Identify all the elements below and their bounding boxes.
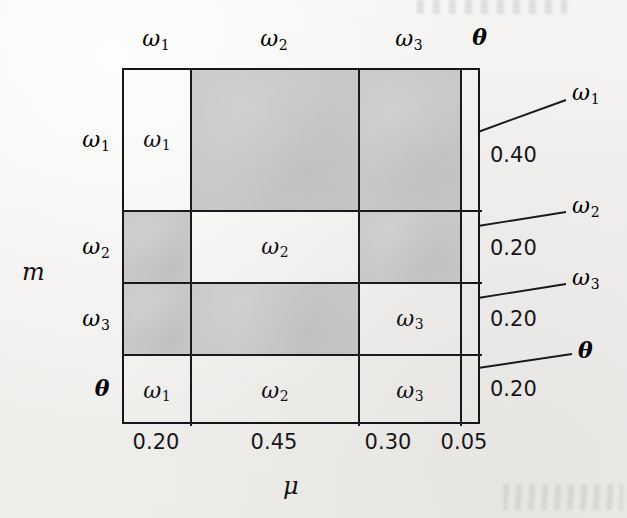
scan-artifact-top	[417, 0, 567, 14]
row-header-3: θ	[36, 375, 110, 403]
row-callout-1: ω2	[572, 193, 600, 220]
matrix-cell-3-2-subscript: 3	[415, 388, 424, 404]
row-header-0-symbol: ω	[82, 127, 100, 152]
matrix-cell-1-1-symbol: ω	[261, 234, 279, 259]
matrix-cell-2-1[interactable]	[192, 284, 360, 356]
row-header-2-subscript: 3	[101, 317, 110, 333]
matrix-cell-1-0[interactable]	[124, 212, 192, 284]
combination-matrix-grid: ω1 ω2 ω3	[122, 68, 480, 424]
matrix-cell-1-1[interactable]: ω2	[192, 212, 360, 284]
row-header-0: ω1	[36, 127, 110, 154]
leader-line-2	[478, 284, 566, 298]
row-header-1-subscript: 2	[101, 245, 110, 261]
row-callout-3-symbol: θ	[578, 337, 593, 363]
column-header-2-symbol: ω	[395, 26, 413, 51]
matrix-cell-3-0-symbol: ω	[143, 378, 161, 403]
row-callout-0: ω1	[572, 80, 600, 107]
matrix-cell-0-0-symbol: ω	[143, 127, 161, 152]
column-header-1-symbol: ω	[260, 26, 278, 51]
x-axis-name: μ	[283, 472, 299, 500]
row-header-1-symbol: ω	[82, 234, 100, 259]
column-header-1: ω2	[190, 26, 358, 53]
leader-line-3	[478, 354, 572, 368]
row-mass-1: 0.20	[490, 236, 570, 260]
matrix-cell-3-0-subscript: 1	[162, 388, 171, 404]
column-header-2: ω3	[358, 26, 460, 53]
matrix-cell-3-2[interactable]: ω3	[360, 356, 462, 426]
row-callout-0-subscript: 1	[591, 91, 600, 107]
row-callout-3: θ	[578, 337, 593, 365]
dempster-combination-matrix-figure: ω1 ω2 ω3 θ ω1 ω2 ω3 θ m μ ω1	[0, 0, 627, 518]
matrix-cell-3-1[interactable]: ω2	[192, 356, 360, 426]
matrix-cell-2-2[interactable]: ω3	[360, 284, 462, 356]
matrix-cell-0-2[interactable]	[360, 70, 462, 212]
row-callout-2: ω3	[572, 265, 600, 292]
leader-line-0	[478, 100, 566, 132]
column-mass-1: 0.45	[190, 430, 358, 454]
matrix-cell-1-2[interactable]	[360, 212, 462, 284]
row-mass-0: 0.40	[490, 143, 570, 167]
scan-artifact-bottom	[503, 484, 623, 510]
matrix-cell-1-3[interactable]	[462, 212, 482, 284]
matrix-cell-0-3[interactable]	[462, 70, 482, 212]
matrix-cell-2-0[interactable]	[124, 284, 192, 356]
row-mass-2: 0.20	[490, 307, 570, 331]
column-header-3-symbol: θ	[472, 24, 487, 50]
matrix-cell-3-1-subscript: 2	[280, 388, 289, 404]
matrix-cell-3-2-symbol: ω	[396, 378, 414, 403]
matrix-cell-3-3[interactable]	[462, 356, 482, 426]
column-header-1-subscript: 2	[279, 37, 288, 53]
leader-line-1	[478, 212, 566, 226]
row-header-2: ω3	[36, 306, 110, 333]
matrix-cell-1-1-subscript: 2	[280, 244, 289, 260]
column-header-2-subscript: 3	[414, 37, 423, 53]
matrix-cell-3-0[interactable]: ω1	[124, 356, 192, 426]
row-header-2-symbol: ω	[82, 306, 100, 331]
column-mass-2: 0.30	[352, 430, 424, 454]
row-callout-1-symbol: ω	[572, 193, 590, 218]
row-callout-2-symbol: ω	[572, 265, 590, 290]
row-callout-1-subscript: 2	[591, 204, 600, 220]
matrix-cell-2-2-subscript: 3	[415, 316, 424, 332]
column-mass-3: 0.05	[428, 430, 500, 454]
matrix-cell-0-0-subscript: 1	[162, 137, 171, 153]
column-mass-0: 0.20	[122, 430, 190, 454]
row-header-1: ω2	[36, 234, 110, 261]
row-callout-0-symbol: ω	[572, 80, 590, 105]
row-callout-2-subscript: 3	[591, 276, 600, 292]
column-header-3: θ	[452, 24, 508, 52]
row-header-0-subscript: 1	[101, 138, 110, 154]
matrix-cell-3-1-symbol: ω	[261, 378, 279, 403]
column-header-0-subscript: 1	[161, 37, 170, 53]
matrix-cell-0-0[interactable]: ω1	[124, 70, 192, 212]
row-mass-3: 0.20	[490, 377, 570, 401]
matrix-cell-2-3[interactable]	[462, 284, 482, 356]
row-header-3-symbol: θ	[95, 375, 110, 401]
column-header-0: ω1	[122, 26, 190, 53]
matrix-cell-0-1[interactable]	[192, 70, 360, 212]
column-header-0-symbol: ω	[142, 26, 160, 51]
y-axis-name: m	[22, 258, 45, 286]
matrix-cell-2-2-symbol: ω	[396, 306, 414, 331]
